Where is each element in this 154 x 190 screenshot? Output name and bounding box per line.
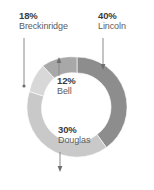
annotation-lincoln: 40% Lincoln: [98, 10, 126, 32]
annotation-breckinridge-percent: 18%: [19, 10, 68, 21]
annotation-lincoln-percent: 40%: [98, 10, 126, 21]
donut-chart: 18% Breckinridge 40% Lincoln 12% Bell 30…: [0, 0, 154, 190]
annotation-douglas-name: Douglas: [58, 135, 90, 146]
annotation-bell: 12% Bell: [57, 75, 76, 97]
leader-arrow-douglas: [58, 166, 63, 172]
annotation-bell-percent: 12%: [57, 75, 76, 86]
leader-dot-breckinridge: [22, 84, 25, 87]
annotation-douglas: 30% Douglas: [58, 124, 90, 146]
annotation-breckinridge: 18% Breckinridge: [19, 10, 68, 32]
annotation-lincoln-name: Lincoln: [98, 21, 126, 32]
annotation-douglas-percent: 30%: [58, 124, 90, 135]
annotation-breckinridge-name: Breckinridge: [19, 21, 68, 32]
annotation-bell-name: Bell: [57, 86, 76, 97]
